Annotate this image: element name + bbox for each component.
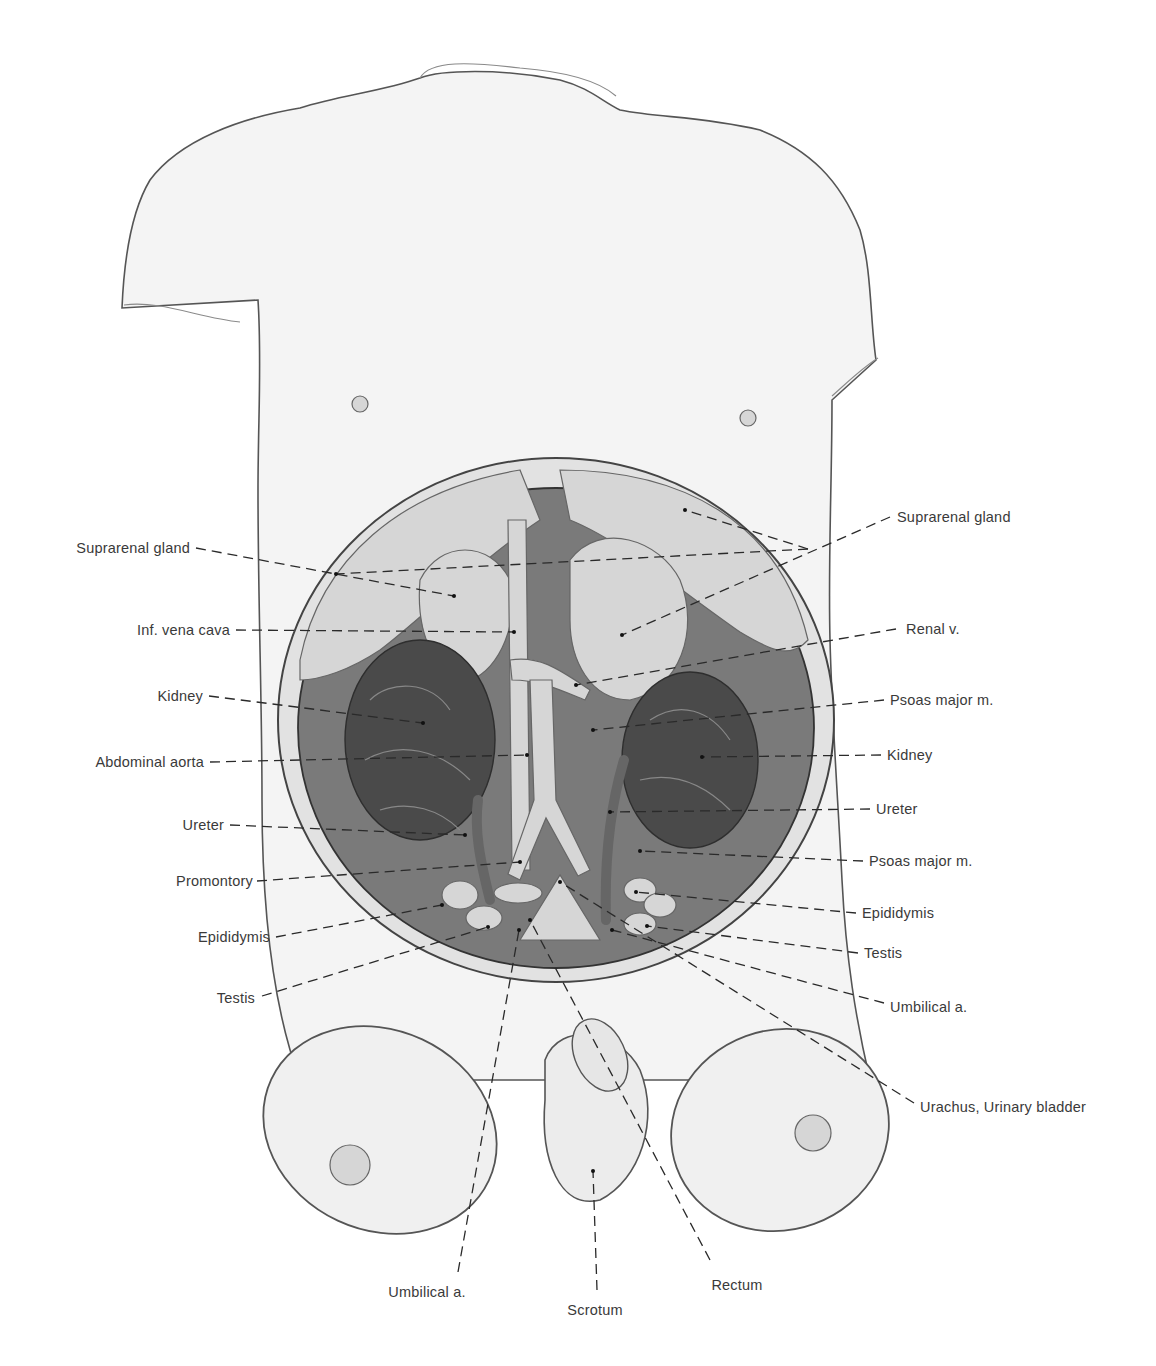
femur-right — [795, 1115, 831, 1151]
label-renal-vein: Renal v. — [906, 621, 960, 637]
leader-endpoint — [486, 925, 490, 929]
leader-endpoint — [683, 508, 687, 512]
leader-endpoint — [452, 594, 456, 598]
leader-endpoint — [334, 572, 338, 576]
leader-endpoint — [463, 833, 467, 837]
label-abdominal-aorta: Abdominal aorta — [95, 754, 204, 770]
label-testis-left: Testis — [217, 990, 255, 1006]
leader-endpoint — [638, 849, 642, 853]
leader-endpoint — [518, 860, 522, 864]
label-kidney-right: Kidney — [887, 747, 933, 763]
label-psoas-major-lower: Psoas major m. — [869, 853, 973, 869]
label-psoas-major-upper: Psoas major m. — [890, 692, 994, 708]
label-umbilical-artery-right: Umbilical a. — [890, 999, 967, 1015]
label-scrotum: Scrotum — [567, 1302, 622, 1318]
leader-endpoint — [610, 928, 614, 932]
leader-endpoint — [591, 728, 595, 732]
femur-left — [330, 1145, 370, 1185]
leader-endpoint — [574, 683, 578, 687]
leader-endpoint — [421, 721, 425, 725]
leader-endpoint — [528, 918, 532, 922]
label-inf-vena-cava: Inf. vena cava — [137, 622, 230, 638]
leader-endpoint — [525, 753, 529, 757]
leader-endpoint — [558, 880, 562, 884]
label-urachus-urinary-bladder: Urachus, Urinary bladder — [920, 1099, 1086, 1115]
right-nipple — [740, 410, 756, 426]
rectum-opening — [494, 883, 542, 903]
leader-endpoint — [591, 1169, 595, 1173]
left-nipple — [352, 396, 368, 412]
kidney-right — [622, 672, 758, 848]
leader-endpoint — [512, 630, 516, 634]
leader-endpoint — [700, 755, 704, 759]
leader-endpoint — [517, 928, 521, 932]
label-epididymis-left: Epididymis — [198, 929, 270, 945]
label-suprarenal-gland-left: Suprarenal gland — [76, 540, 190, 556]
label-epididymis-right: Epididymis — [862, 905, 934, 921]
leader-endpoint — [440, 903, 444, 907]
label-kidney-left: Kidney — [157, 688, 203, 704]
inferior-vena-cava — [508, 520, 530, 870]
label-testis-right: Testis — [864, 945, 902, 961]
label-rectum: Rectum — [711, 1277, 762, 1293]
label-promontory: Promontory — [176, 873, 253, 889]
leader-endpoint — [645, 924, 649, 928]
leader-endpoint — [620, 633, 624, 637]
leader-endpoint — [634, 890, 638, 894]
leader-endpoint — [608, 810, 612, 814]
label-ureter-right: Ureter — [876, 801, 918, 817]
anatomy-illustration — [0, 0, 1156, 1366]
label-ureter-left: Ureter — [183, 817, 225, 833]
label-suprarenal-gland-right: Suprarenal gland — [897, 509, 1011, 525]
label-umbilical-artery-bottom: Umbilical a. — [388, 1284, 465, 1300]
